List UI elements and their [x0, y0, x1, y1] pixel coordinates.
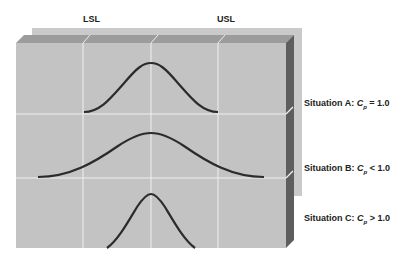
situation-b-label: Situation B: Cp < 1.0 [304, 163, 390, 175]
situation-c-label: Situation C: Cp > 1.0 [304, 213, 390, 225]
situation-a-label: Situation A: Cp = 1.0 [304, 98, 390, 110]
right-side [286, 35, 294, 248]
situation-c-relation: > 1.0 [367, 213, 390, 223]
situation-b-prefix: Situation B: [304, 163, 357, 173]
situation-a-prefix: Situation A: [304, 98, 357, 108]
situation-b-relation: < 1.0 [367, 163, 390, 173]
situation-c-prefix: Situation C: [304, 213, 357, 223]
situation-a-relation: = 1.0 [367, 98, 390, 108]
lsl-label: LSL [83, 14, 100, 24]
usl-label: USL [217, 14, 235, 24]
